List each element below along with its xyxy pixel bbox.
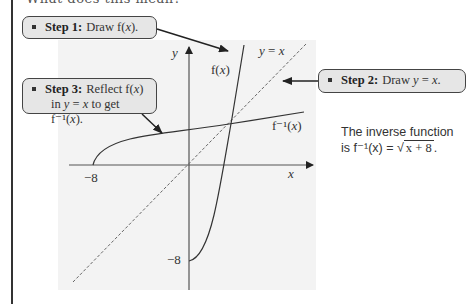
- y-axis-label: y: [172, 45, 178, 61]
- x-tick-minus-8: −8: [84, 170, 98, 186]
- sqrt-symbol: √: [397, 141, 404, 155]
- x-axis-label: x: [288, 166, 294, 182]
- step3-callout: Step 3:Reflect f(x) in y = x to get f⁻¹(…: [22, 78, 157, 114]
- bullet-icon: [328, 78, 332, 82]
- bullet-icon: [32, 87, 36, 91]
- curve-f-label: f(x): [211, 62, 230, 78]
- line-y-equals-x-label: y = x: [259, 43, 284, 59]
- inverse-note-line2: is f⁻¹(x) = √x + 8.: [341, 140, 454, 156]
- inverse-note-line1: The inverse function: [341, 124, 454, 140]
- arrow-step1: [157, 29, 228, 51]
- curve-f-inverse-label: f⁻¹(x): [272, 118, 302, 134]
- step1-callout: Step 1:Draw f(x).: [22, 16, 157, 39]
- y-tick-minus-8: −8: [167, 252, 181, 268]
- inverse-function-note: The inverse function is f⁻¹(x) = √x + 8.: [341, 124, 454, 156]
- bullet-icon: [32, 25, 36, 29]
- step2-callout: Step 2:Draw y = x.: [318, 69, 466, 93]
